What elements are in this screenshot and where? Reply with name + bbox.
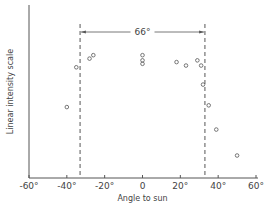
data-point-circle — [175, 60, 179, 64]
data-point-circle — [88, 57, 92, 61]
x-axis-label: Angle to sun — [117, 194, 167, 203]
x-tick-label: 20° — [172, 181, 188, 191]
x-tick-label: -60° — [19, 181, 38, 191]
data-point-circle — [196, 59, 200, 63]
data-point-circle — [141, 53, 145, 57]
data-point-circle — [207, 104, 211, 108]
x-tick-label: 60° — [248, 181, 264, 191]
x-tick-label: 40° — [210, 181, 226, 191]
data-point-circle — [214, 128, 218, 132]
data-point-circle — [141, 62, 145, 66]
data-points — [65, 53, 239, 157]
x-ticks: -60°-40°-20°020°40°60° — [19, 175, 264, 191]
y-axis-label: Linear intensity scale — [6, 49, 15, 134]
scatter-chart: Linear intensity scale -60°-40°-20°020°4… — [0, 0, 269, 206]
span-annotation-label: 66° — [135, 27, 151, 37]
y-axis: Linear intensity scale — [6, 5, 29, 178]
x-tick-label: 0 — [140, 181, 146, 191]
x-tick-label: -40° — [57, 181, 76, 191]
x-tick-label: -20° — [95, 181, 114, 191]
data-point-circle — [141, 59, 145, 63]
data-point-circle — [235, 154, 239, 158]
annotations: 66° — [80, 24, 205, 178]
data-point-circle — [199, 64, 203, 68]
data-point-circle — [74, 65, 78, 69]
x-axis: -60°-40°-20°020°40°60° Angle to sun — [19, 175, 264, 203]
data-point-circle — [184, 64, 188, 68]
data-point-circle — [92, 53, 96, 57]
data-point-circle — [65, 105, 69, 109]
data-point-circle — [201, 83, 205, 87]
